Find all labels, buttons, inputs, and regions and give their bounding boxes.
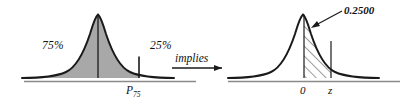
right-area-value-label: 0.2500 — [344, 5, 374, 16]
left-shaded-percent-label: 75% — [42, 40, 64, 52]
p75-subscript: 75 — [133, 90, 141, 99]
left-shaded-region — [22, 15, 139, 79]
right-normal-curve-group — [228, 11, 400, 82]
left-unshaded-percent-label: 25% — [150, 40, 172, 52]
area-label-arrow-head — [311, 21, 320, 28]
left-p75-tick-label: P75 — [126, 85, 141, 99]
right-z-tick-label: z — [328, 85, 332, 96]
p75-base-letter: P — [126, 84, 133, 96]
right-origin-tick-label: 0 — [300, 85, 306, 96]
normal-distribution-figure: 75% 25% P75 implies 0.2500 0 z — [0, 0, 408, 103]
implies-label: implies — [175, 53, 208, 65]
